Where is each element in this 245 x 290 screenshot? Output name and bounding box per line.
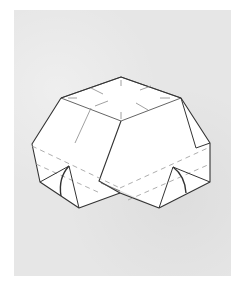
origami-diagram — [0, 0, 245, 290]
